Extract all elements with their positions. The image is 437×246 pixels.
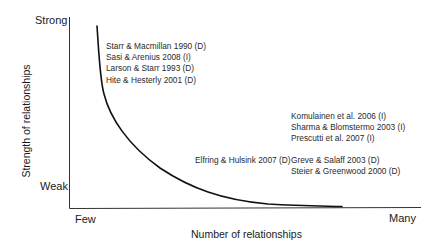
citation: Elfring & Hulsink 2007 (D) bbox=[195, 155, 290, 166]
citation: Sasi & Arenius 2008 (I) bbox=[106, 52, 206, 63]
citation: Greve & Salaff 2003 (D) bbox=[291, 155, 400, 166]
x-axis-line bbox=[70, 208, 422, 209]
citation: Sharma & Blomstermo 2003 (I) bbox=[291, 122, 405, 133]
citation-group-middle: Elfring & Hulsink 2007 (D) bbox=[195, 155, 290, 166]
x-axis-left-label: Few bbox=[75, 214, 96, 225]
x-axis-title: Number of relationships bbox=[191, 229, 302, 240]
citation-group-strong: Starr & Macmillan 1990 (D) Sasi & Areniu… bbox=[106, 41, 206, 86]
citation: Starr & Macmillan 1990 (D) bbox=[106, 41, 206, 52]
citation: Hite & Hesterly 2001 (D) bbox=[106, 75, 206, 86]
citation-group-weak: Greve & Salaff 2003 (D) Steier & Greenwo… bbox=[291, 155, 400, 177]
y-axis-bottom-label: Weak bbox=[40, 181, 68, 192]
citation: Prescutti et al. 2007 (I) bbox=[291, 133, 405, 144]
citation-group-middle-right: Komulainen et al. 2006 (I) Sharma & Blom… bbox=[291, 111, 405, 145]
citation: Komulainen et al. 2006 (I) bbox=[291, 111, 405, 122]
citation: Steier & Greenwood 2000 (D) bbox=[291, 166, 400, 177]
y-axis-title: Strength of relationships bbox=[21, 64, 32, 177]
y-axis-top-label: Strong bbox=[35, 15, 67, 26]
citation: Larson & Starr 1993 (D) bbox=[106, 63, 206, 74]
x-axis-right-label: Many bbox=[389, 213, 416, 224]
